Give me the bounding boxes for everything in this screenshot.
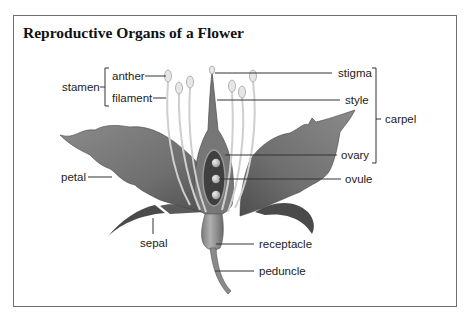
label-stigma: stigma — [338, 67, 372, 79]
label-receptacle: receptacle — [259, 238, 312, 250]
label-petal: petal — [61, 171, 86, 183]
label-carpel: carpel — [385, 113, 416, 125]
label-sepal: sepal — [140, 237, 168, 249]
label-peduncle: peduncle — [259, 265, 306, 277]
flower-illustration — [0, 0, 474, 323]
stigma-shape — [209, 66, 214, 74]
label-ovule: ovule — [345, 173, 373, 185]
label-filament: filament — [112, 92, 152, 104]
sepal-right-shape — [255, 203, 314, 234]
label-stamen: stamen — [62, 81, 100, 93]
ovule-shape — [212, 159, 220, 167]
label-ovary: ovary — [341, 149, 369, 161]
receptacle-shape — [202, 214, 224, 250]
sepal-left-shape — [107, 205, 165, 238]
label-anther: anther — [112, 70, 145, 82]
petal-right-shape — [240, 110, 355, 216]
label-style: style — [345, 94, 369, 106]
